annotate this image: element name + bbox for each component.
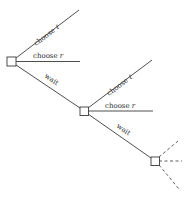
label-n1-choose-r-text: choose	[33, 52, 60, 60]
label-n2-wait-text: wait	[115, 122, 132, 137]
decision-node-1	[7, 57, 16, 66]
game-tree-diagram: choose ℓ choose r wait choose ℓ choose r…	[0, 0, 193, 198]
label-n1-choose-l-text: choose	[32, 25, 58, 48]
edge-n2-wait	[88, 114, 151, 158]
edge-n3-continuation-lower	[159, 165, 179, 189]
decision-node-2	[80, 107, 89, 116]
label-n2-choose-r: choose r	[105, 102, 136, 110]
label-n2-choose-l-text: choose	[105, 75, 131, 98]
edge-n3-continuation-upper	[159, 141, 178, 157]
label-n1-choose-l: choose ℓ	[32, 23, 61, 47]
decision-node-3	[151, 157, 160, 166]
label-n2-choose-r-var: r	[132, 102, 136, 110]
label-n2-choose-r-text: choose	[105, 102, 132, 110]
label-n1-choose-r-var: r	[60, 52, 64, 60]
label-n2-wait: wait	[115, 122, 132, 137]
label-n2-choose-l: choose ℓ	[105, 73, 134, 97]
label-n1-choose-r: choose r	[33, 52, 64, 60]
